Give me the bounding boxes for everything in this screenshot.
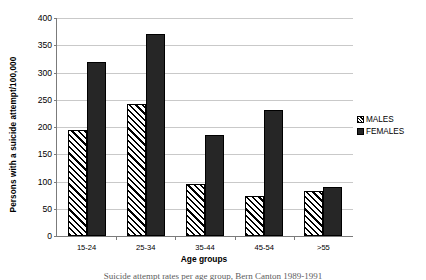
legend-swatch-icon [357, 116, 364, 123]
category-separator [175, 236, 176, 240]
legend-item-males: MALES [357, 114, 404, 125]
y-tick-label: 0 [47, 231, 52, 241]
y-tick-label: 200 [38, 122, 52, 132]
bar-group: >55 [294, 18, 353, 236]
bar-group: 45-54 [235, 18, 294, 236]
bar-groups: 15-2425-3435-4445-54>55 [57, 18, 353, 236]
suicide-attempt-bar-chart: Persons with a suicide attempt/100,000 0… [0, 0, 426, 280]
y-axis-title: Persons with a suicide attempt/100,000 [9, 30, 18, 240]
y-tick-label: 350 [38, 40, 52, 50]
y-tick-label: 250 [38, 95, 52, 105]
bar-females-35-44 [205, 135, 224, 236]
x-tick-label: 35-44 [195, 243, 214, 252]
category-separator [116, 236, 117, 240]
y-tick-label: 50 [42, 204, 52, 214]
bar-males-45-54 [245, 196, 264, 236]
x-tick-label: 25-34 [136, 243, 155, 252]
y-tick-label: 300 [38, 68, 52, 78]
y-tick-label: 100 [38, 177, 52, 187]
x-tick-label: >55 [317, 243, 330, 252]
bar-females->55 [323, 187, 342, 236]
bar-males-35-44 [186, 184, 205, 236]
bar-group: 35-44 [175, 18, 234, 236]
bar-group: 25-34 [116, 18, 175, 236]
y-tick-mark [54, 236, 57, 237]
y-tick-label: 150 [38, 149, 52, 159]
legend-label: MALES [366, 114, 394, 125]
bar-females-15-24 [87, 62, 106, 236]
bar-group: 15-24 [57, 18, 116, 236]
legend-swatch-icon [357, 128, 364, 135]
x-tick-label: 15-24 [77, 243, 96, 252]
bar-males-15-24 [68, 130, 87, 236]
legend-label: FEMALES [366, 126, 404, 137]
y-tick-label: 400 [38, 13, 52, 23]
category-separator [294, 236, 295, 240]
bar-males-25-34 [127, 104, 146, 236]
bar-males->55 [304, 191, 323, 236]
bar-females-45-54 [264, 110, 283, 236]
legend-item-females: FEMALES [357, 126, 404, 137]
figure-caption: Suicide attempt rates per age group, Ber… [0, 271, 426, 280]
x-tick-label: 45-54 [254, 243, 273, 252]
chart-legend: MALESFEMALES [357, 114, 404, 138]
plot-area: 050100150200250300350400 15-2425-3435-44… [56, 18, 353, 237]
bar-females-25-34 [146, 34, 165, 236]
category-separator [235, 236, 236, 240]
gridline [57, 236, 353, 237]
x-axis-title: Age groups [56, 254, 352, 264]
